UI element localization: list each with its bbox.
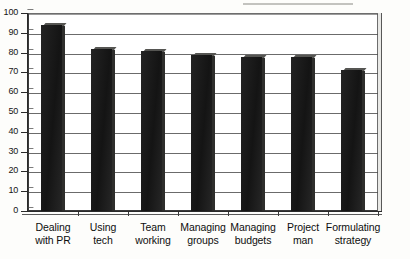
x-axis-tick <box>78 212 79 216</box>
y-axis-tick <box>21 92 27 93</box>
y-axis-tick-label: 50 <box>0 107 18 116</box>
y-axis-tick <box>21 33 27 34</box>
bar <box>141 49 165 211</box>
bar-side-face <box>62 26 65 211</box>
y-axis-tick <box>21 132 27 133</box>
x-axis-tick <box>128 212 129 216</box>
y-axis-tick-label: 70 <box>0 67 18 76</box>
y-axis-tick-label: 20 <box>0 166 18 175</box>
y-axis-tick-label: 30 <box>0 147 18 156</box>
y-axis-tick-label: 100 <box>0 8 18 17</box>
y-axis-tick <box>21 13 27 14</box>
y-axis-tick <box>21 152 27 153</box>
y-axis-tick <box>21 112 27 113</box>
y-axis-tick-label: 60 <box>0 87 18 96</box>
category-label-line: strategy <box>323 234 383 247</box>
x-axis-tick <box>378 212 379 216</box>
y-axis-tick-label: 10 <box>0 186 18 195</box>
bar-side-face <box>312 58 315 211</box>
bar-front-face <box>41 25 62 211</box>
bar <box>241 55 265 211</box>
bar-front-face <box>291 57 312 211</box>
y-axis-tick <box>21 72 27 73</box>
plot-depth-wall <box>378 13 382 211</box>
y-axis-tick <box>21 191 27 192</box>
bar <box>191 53 215 211</box>
gridline <box>29 14 379 15</box>
x-axis-tick <box>328 212 329 216</box>
x-axis-tick <box>278 212 279 216</box>
y-axis-tick-label: 80 <box>0 48 18 57</box>
category-label-line: Formulating <box>323 221 383 234</box>
bar-front-face <box>241 57 262 211</box>
y-axis-tick <box>21 171 27 172</box>
y-axis-tick-label: 0 <box>0 206 18 215</box>
bar-front-face <box>91 49 112 211</box>
y-axis-tick <box>21 53 27 54</box>
y-axis-tick-label: 90 <box>0 28 18 37</box>
bar-front-face <box>341 70 362 211</box>
x-axis-category-label: Formulatingstrategy <box>323 221 383 247</box>
x-axis-tick <box>178 212 179 216</box>
x-axis-tick <box>228 212 229 216</box>
bar-front-face <box>191 55 212 211</box>
bar-side-face <box>362 71 365 211</box>
bar-side-face <box>112 50 115 211</box>
y-axis-tick-label: 40 <box>0 127 18 136</box>
gridline <box>29 34 379 35</box>
y-axis-tick <box>21 211 27 212</box>
bar <box>341 68 365 211</box>
bar <box>41 23 65 211</box>
y-axis-line <box>27 13 28 212</box>
bar <box>91 47 115 211</box>
bar-side-face <box>262 58 265 211</box>
bar <box>291 55 315 211</box>
bar-front-face <box>141 51 162 211</box>
bar-side-face <box>162 52 165 211</box>
bar-side-face <box>212 56 215 211</box>
bar-chart: 1009080706050403020100 Dealingwith PRUsi… <box>0 0 410 259</box>
